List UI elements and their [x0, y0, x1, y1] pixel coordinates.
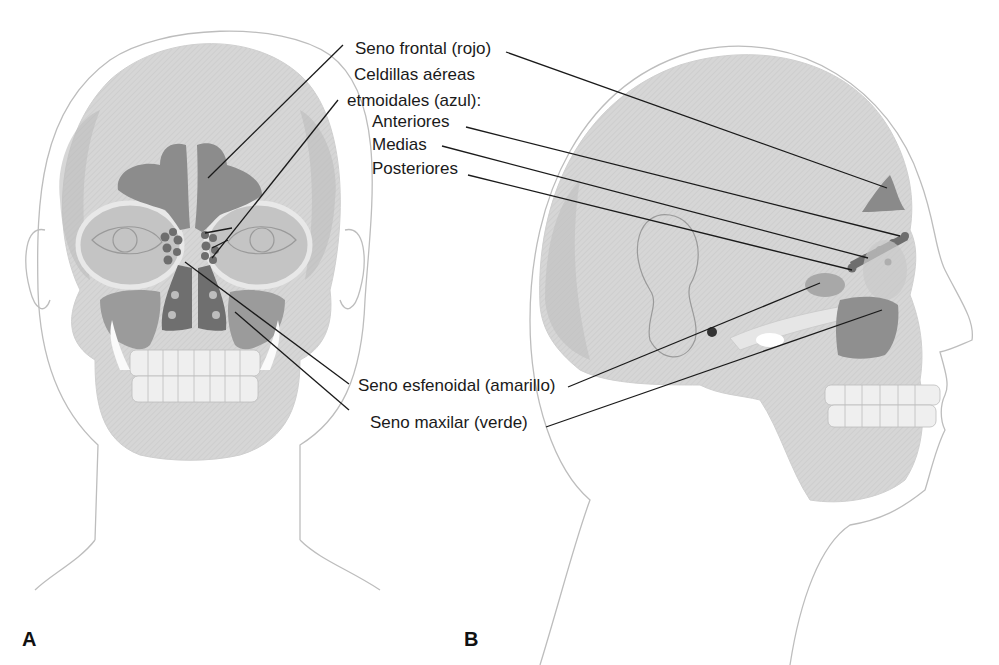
maxillary-sinus-lateral-view — [836, 297, 898, 359]
label-middle-ethmoid: Medias — [372, 136, 427, 153]
label-ethmoid-cells-line1: Celdillas aéreas — [354, 66, 475, 83]
teeth-frontal — [130, 350, 260, 402]
panel-label-a: A — [22, 628, 36, 651]
sphenoid-sinus-lateral-view — [805, 273, 845, 297]
label-anterior-ethmoid: Anteriores — [372, 113, 449, 130]
label-posterior-ethmoid: Posteriores — [372, 160, 458, 177]
label-ethmoid-cells-line2: etmoidales (azul): — [347, 92, 481, 109]
label-frontal-sinus: Seno frontal (rojo) — [355, 40, 491, 57]
label-sphenoid-sinus: Seno esfenoidal (amarillo) — [358, 377, 556, 394]
panel-label-b: B — [464, 628, 478, 651]
teeth-lateral — [825, 385, 940, 427]
label-maxillary-sinus: Seno maxilar (verde) — [370, 414, 528, 431]
sinus-anatomy-illustration — [0, 0, 999, 665]
right-ear — [340, 230, 364, 309]
